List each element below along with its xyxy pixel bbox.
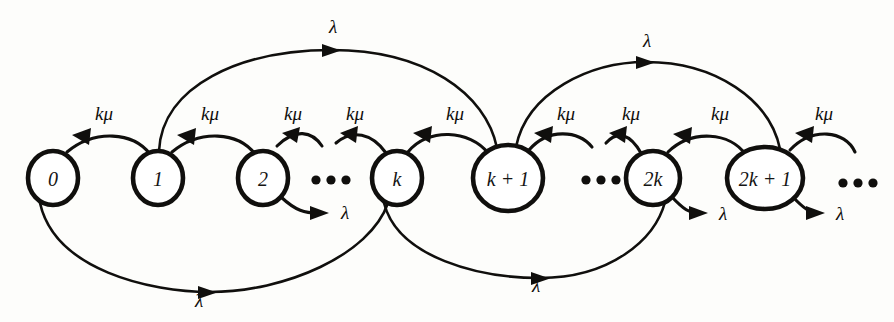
kmu-arc-dots-to-2 — [277, 127, 322, 146]
state-node-k-plus-1-label: k + 1 — [487, 168, 529, 190]
state-node-0-label: 0 — [48, 168, 58, 190]
kmu-arc-k-to-dots — [336, 126, 386, 153]
lambda-label-top-2: λ — [642, 30, 651, 51]
lambda-stub-from-2k — [671, 196, 708, 220]
state-node-k-label: k — [393, 168, 403, 190]
state-transition-diagram: 0 1 2 k k + 1 2k 2k + 1 — [0, 0, 894, 322]
kmu-arc-kplus1-to-k — [408, 126, 488, 153]
lambda-stub-from-2kplus1 — [793, 197, 825, 220]
state-node-2k-plus-1-label: 2k + 1 — [739, 168, 791, 190]
ellipsis-after-2k-plus-1 — [838, 178, 877, 187]
state-node-k-plus-1: k + 1 — [473, 145, 543, 211]
state-node-0: 0 — [28, 151, 78, 205]
kmu-label-1: kμ — [95, 103, 113, 124]
kmu-label-3: kμ — [284, 103, 302, 124]
state-node-1: 1 — [133, 151, 183, 205]
lambda-label-top-1: λ — [328, 16, 337, 37]
kmu-label-9: kμ — [815, 103, 833, 124]
lambda-label-stub-2: λ — [718, 203, 727, 224]
state-node-k: k — [372, 151, 422, 205]
kmu-arc-2-to-1 — [172, 128, 255, 154]
ellipsis-after-2 — [311, 175, 350, 184]
state-node-2k-label: 2k — [644, 168, 664, 190]
kmu-label-4: kμ — [346, 103, 364, 124]
state-node-2-label: 2 — [258, 168, 268, 190]
kmu-arc-dots2-to-kplus1 — [529, 126, 592, 150]
kmu-arc-2kplus1-to-2k — [668, 127, 746, 155]
state-node-2k: 2k — [626, 151, 680, 205]
lambda-label-stub-1: λ — [340, 202, 349, 223]
state-node-2: 2 — [238, 151, 288, 205]
state-node-1-label: 1 — [153, 168, 163, 190]
ellipsis-after-k-plus-1 — [581, 175, 620, 184]
lambda-label-stub-3: λ — [835, 203, 844, 224]
lambda-label-bottom-2: λ — [531, 275, 540, 296]
state-node-2k-plus-1: 2k + 1 — [727, 147, 803, 209]
diagram-canvas: 0 1 2 k k + 1 2k 2k + 1 — [0, 0, 894, 322]
kmu-label-6: kμ — [557, 103, 575, 124]
kmu-label-7: kμ — [622, 103, 640, 124]
kmu-arc-1-to-0 — [67, 128, 150, 154]
lambda-bottom-arc-0-to-k — [40, 203, 388, 299]
kmu-arc-dots3-to-2kplus1 — [790, 126, 855, 152]
kmu-label-2: kμ — [201, 103, 219, 124]
lambda-label-bottom-1: λ — [194, 290, 203, 311]
kmu-label-5: kμ — [446, 103, 464, 124]
lambda-stub-from-2 — [281, 197, 329, 220]
lambda-bottom-arc-k-to-2k — [384, 202, 665, 285]
kmu-arc-2k-to-dots2 — [606, 126, 641, 153]
kmu-label-8: kμ — [711, 103, 729, 124]
